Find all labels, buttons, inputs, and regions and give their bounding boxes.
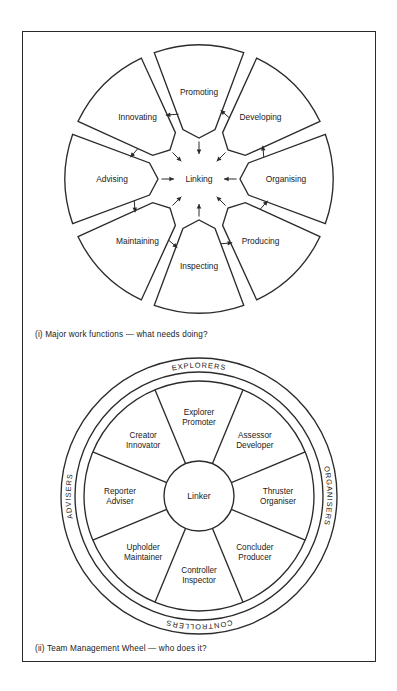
work-function-segment[interactable]: Maintaining: [78, 203, 175, 300]
linker-hub-label: Linker: [187, 491, 211, 501]
team-role-sector[interactable]: ControllerInspector: [181, 528, 243, 602]
inward-flow-arrow: [162, 177, 175, 182]
inward-flow-arrow: [197, 204, 202, 217]
team-role-label: ReporterAdviser: [104, 487, 136, 506]
team-role-label: AssessorDeveloper: [236, 431, 274, 450]
inward-flow-arrow: [197, 142, 202, 155]
team-role-label: UpholderMaintainer: [124, 543, 163, 562]
team-role-label: ConcluderProducer: [236, 543, 274, 562]
panel-team-management-wheel: ExplorerPromoterAssessorDeveloperThruste…: [23, 352, 375, 661]
ring-group-label: ADVISERS: [64, 472, 75, 519]
caption-team-management-wheel: (ii) Team Management Wheel — who does it…: [35, 644, 207, 653]
team-management-wheel: ExplorerPromoterAssessorDeveloperThruste…: [49, 354, 349, 642]
inward-flow-arrow: [224, 177, 237, 182]
team-role-sector[interactable]: ExplorerPromoter: [155, 390, 216, 464]
figure-frame: PromotingDevelopingOrganisingProducingIn…: [22, 31, 376, 662]
team-role-label: CreatorInnovator: [126, 431, 160, 450]
work-function-label: Organising: [266, 174, 307, 184]
inward-flow-arrow: [172, 197, 181, 206]
ring-group-label: EXPLORERS: [171, 361, 227, 373]
ring-group-label: ORGANISERS: [322, 465, 334, 527]
inward-flow-arrow: [217, 197, 226, 206]
work-function-segment[interactable]: Producing: [223, 203, 320, 300]
team-role-sector[interactable]: ReporterAdviser: [93, 487, 167, 540]
panel-major-work-functions: PromotingDevelopingOrganisingProducingIn…: [23, 32, 375, 352]
team-role-label: ExplorerPromoter: [182, 408, 216, 427]
work-function-label: Innovating: [118, 112, 157, 122]
inward-flow-arrow: [217, 152, 226, 161]
inward-flow-arrow: [172, 152, 181, 161]
work-function-label: Developing: [240, 112, 282, 122]
team-role-label: ThrusterOrganiser: [260, 487, 296, 506]
major-work-functions-wheel: PromotingDevelopingOrganisingProducingIn…: [49, 36, 349, 326]
work-function-label: Advising: [96, 174, 128, 184]
caption-major-work-functions: (i) Major work functions — what needs do…: [35, 330, 208, 339]
team-role-sector[interactable]: CreatorInnovator: [93, 431, 167, 482]
team-role-sector[interactable]: ThrusterOrganiser: [231, 452, 305, 506]
work-function-label: Maintaining: [116, 236, 159, 246]
work-function-segment[interactable]: Innovating: [78, 58, 175, 155]
team-role-label: ControllerInspector: [181, 566, 217, 585]
team-role-sector[interactable]: ConcluderProducer: [231, 509, 305, 561]
work-function-segment[interactable]: Developing: [223, 58, 320, 155]
linking-hub-label: Linking: [185, 174, 212, 184]
work-function-label: Promoting: [180, 87, 219, 97]
work-function-label: Producing: [242, 236, 280, 246]
work-function-label: Inspecting: [180, 261, 219, 271]
